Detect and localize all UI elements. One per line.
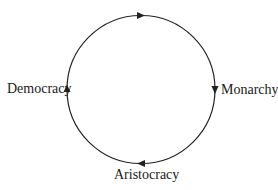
node-label-monarchy: Monarchy bbox=[221, 83, 278, 97]
cycle-circle bbox=[67, 16, 215, 164]
node-label-democracy: Democracy bbox=[7, 82, 72, 96]
arrow-right-icon bbox=[137, 12, 145, 19]
node-label-aristocracy: Aristocracy bbox=[114, 168, 179, 182]
arrow-left-icon bbox=[137, 160, 145, 167]
arrow-down-icon bbox=[212, 86, 219, 94]
